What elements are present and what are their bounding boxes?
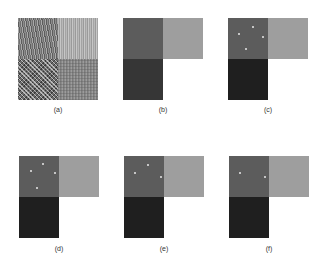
panel-c-image bbox=[228, 18, 308, 100]
region-bottom-left bbox=[229, 197, 269, 238]
region-bottom-left bbox=[19, 197, 59, 238]
noise-speck bbox=[252, 26, 254, 28]
texture-region-bottom-right bbox=[58, 59, 98, 100]
panel-a-image bbox=[18, 18, 98, 100]
panel-b-label: (b) bbox=[123, 106, 203, 113]
region-top-left bbox=[228, 18, 268, 59]
texture-region-bottom-left bbox=[18, 59, 58, 100]
panel-e-label: (e) bbox=[124, 245, 204, 252]
panel-b-image bbox=[123, 18, 203, 100]
noise-speck bbox=[264, 176, 266, 178]
region-bottom-right bbox=[163, 59, 203, 100]
noise-speck bbox=[42, 163, 44, 165]
region-bottom-left bbox=[123, 59, 163, 100]
region-bottom-right bbox=[268, 59, 308, 100]
region-top-right bbox=[269, 156, 309, 197]
panel-f-image bbox=[229, 156, 309, 238]
region-top-right bbox=[164, 156, 204, 197]
noise-speck bbox=[160, 176, 162, 178]
noise-speck bbox=[147, 164, 149, 166]
region-bottom-right bbox=[269, 197, 309, 238]
panel-e-image bbox=[124, 156, 204, 238]
texture-region-top-right bbox=[58, 18, 98, 59]
region-top-right bbox=[163, 18, 203, 59]
noise-speck bbox=[134, 172, 136, 174]
region-bottom-right bbox=[59, 197, 99, 238]
region-top-right bbox=[268, 18, 308, 59]
region-top-left bbox=[229, 156, 269, 197]
region-bottom-left bbox=[124, 197, 164, 238]
panel-c-label: (c) bbox=[228, 106, 308, 113]
noise-speck bbox=[262, 36, 264, 38]
noise-speck bbox=[30, 170, 32, 172]
noise-speck bbox=[245, 48, 247, 50]
panel-a-label: (a) bbox=[18, 106, 98, 113]
panel-f-label: (f) bbox=[229, 245, 309, 252]
region-top-left bbox=[123, 18, 163, 59]
region-bottom-right bbox=[164, 197, 204, 238]
texture-region-top-left bbox=[18, 18, 58, 59]
noise-speck bbox=[239, 172, 241, 174]
noise-speck bbox=[54, 172, 56, 174]
noise-speck bbox=[238, 33, 240, 35]
region-top-left bbox=[124, 156, 164, 197]
region-top-left bbox=[19, 156, 59, 197]
noise-speck bbox=[36, 187, 38, 189]
region-top-right bbox=[59, 156, 99, 197]
panel-d-label: (d) bbox=[19, 245, 99, 252]
panel-d-image bbox=[19, 156, 99, 238]
region-bottom-left bbox=[228, 59, 268, 100]
